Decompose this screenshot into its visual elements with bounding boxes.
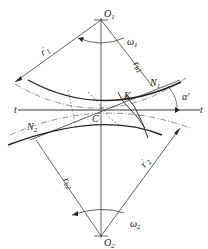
label-r2-prime: r′2: [138, 155, 154, 170]
label-c: C: [92, 113, 99, 124]
omega2-arc: [72, 209, 124, 215]
r1-arrow-icon: [15, 76, 22, 82]
label-t-left: t: [14, 104, 17, 115]
label-rb2: rb2: [60, 175, 77, 192]
r2-prime-line: [101, 128, 180, 236]
r1-prime-line: [15, 20, 101, 82]
tooth-outline-left: [68, 90, 76, 128]
label-t-right: t: [200, 104, 203, 115]
label-k: K: [123, 90, 132, 101]
label-alpha: α′: [182, 91, 190, 102]
label-o1: O1: [104, 8, 115, 21]
label-n2: N2: [26, 121, 38, 134]
label-omega2: ω2: [130, 218, 141, 231]
label-o2: O2: [104, 237, 115, 249]
omega1-arrow-icon: [78, 37, 84, 42]
rb1-line: [101, 20, 153, 87]
gear1-pitch-circle: [15, 78, 186, 108]
omega2-arrow-icon: [72, 211, 78, 216]
label-omega1: ω1: [127, 36, 138, 49]
label-n1: N1: [149, 77, 160, 90]
alpha-arrow-icon: [175, 107, 180, 113]
r2-arrow-icon: [174, 128, 180, 135]
alpha-arc: [168, 86, 177, 110]
gear-mesh-diagram: O1 O2 ω1 ω2 r′1 rb1 rb2 r′2 N1 N2 K C t …: [0, 0, 208, 249]
